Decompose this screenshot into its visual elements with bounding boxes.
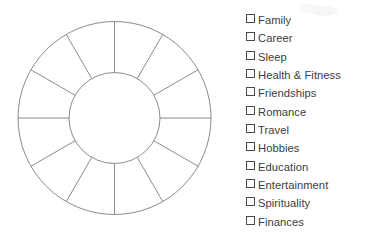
checklist-item[interactable]: Career xyxy=(246,29,366,47)
worksheet-canvas: FamilyCareerSleepHealth & FitnessFriends… xyxy=(0,0,369,243)
checklist-item[interactable]: Entertainment xyxy=(246,176,366,194)
checkbox-icon[interactable] xyxy=(246,69,255,78)
checklist-item[interactable]: Spirituality xyxy=(246,194,366,212)
life-areas-checklist: FamilyCareerSleepHealth & FitnessFriends… xyxy=(246,11,366,231)
checklist-item-label: Entertainment xyxy=(258,176,328,194)
checklist-item[interactable]: Education xyxy=(246,158,366,176)
checklist-item-label: Career xyxy=(258,29,293,47)
checkbox-icon[interactable] xyxy=(246,106,255,115)
checklist-item-label: Friendships xyxy=(258,84,316,102)
checklist-item[interactable]: Health & Fitness xyxy=(246,66,366,84)
checkbox-icon[interactable] xyxy=(246,179,255,188)
checklist-item[interactable]: Hobbies xyxy=(246,139,366,157)
checklist-item-label: Hobbies xyxy=(258,139,299,157)
checkbox-icon[interactable] xyxy=(246,51,255,60)
wheel-of-life-diagram[interactable] xyxy=(0,0,236,243)
checklist-item[interactable]: Family xyxy=(246,11,366,29)
checklist-item-label: Spirituality xyxy=(258,194,310,212)
checkbox-icon[interactable] xyxy=(246,197,255,206)
checklist-item[interactable]: Friendships xyxy=(246,84,366,102)
checklist-item[interactable]: Romance xyxy=(246,103,366,121)
checkbox-icon[interactable] xyxy=(246,32,255,41)
checkbox-icon[interactable] xyxy=(246,87,255,96)
checklist-item-label: Finances xyxy=(258,213,304,231)
checklist-item-label: Education xyxy=(258,158,308,176)
checklist-item-label: Romance xyxy=(258,103,306,121)
checkbox-icon[interactable] xyxy=(246,216,255,225)
checkbox-icon[interactable] xyxy=(246,161,255,170)
checklist-item-label: Travel xyxy=(258,121,289,139)
checkbox-icon[interactable] xyxy=(246,14,255,23)
checklist-item-label: Health & Fitness xyxy=(258,66,341,84)
checkbox-icon[interactable] xyxy=(246,124,255,133)
checklist-item-label: Sleep xyxy=(258,48,287,66)
checkbox-icon[interactable] xyxy=(246,142,255,151)
checklist-item[interactable]: Sleep xyxy=(246,48,366,66)
checklist-item-label: Family xyxy=(258,11,291,29)
wheel-panel xyxy=(0,0,236,243)
wheel-inner-circle xyxy=(69,73,160,164)
checklist-item[interactable]: Finances xyxy=(246,213,366,231)
checklist-item[interactable]: Travel xyxy=(246,121,366,139)
